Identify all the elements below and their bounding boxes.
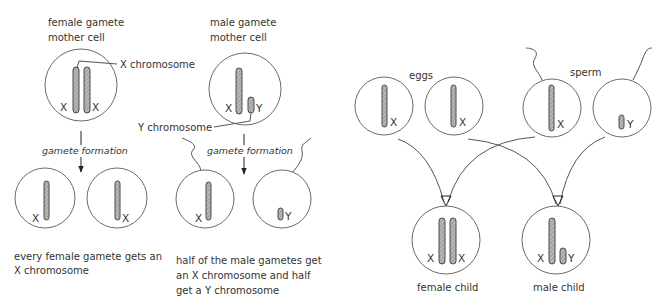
female-caption-2: X chromosome bbox=[14, 265, 89, 276]
gamete-formation-label-female: gamete formation bbox=[42, 145, 128, 156]
female-mother-cell-label-2: mother cell bbox=[48, 32, 105, 43]
x-label: X bbox=[195, 212, 202, 224]
x-label: X bbox=[92, 101, 99, 113]
male-mother-cell: X Y bbox=[209, 53, 281, 125]
x-label: X bbox=[60, 101, 67, 113]
x-label: X bbox=[122, 212, 129, 224]
sperm-tail-icon bbox=[526, 48, 542, 80]
male-child-label: male child bbox=[533, 282, 585, 293]
sperm-label: sperm bbox=[570, 67, 601, 78]
male-caption-1: half of the male gametes get bbox=[176, 255, 322, 266]
x-label: X bbox=[459, 116, 466, 128]
egg-1: X bbox=[355, 77, 413, 135]
x-label: X bbox=[225, 102, 232, 114]
eggs-label: eggs bbox=[409, 70, 433, 81]
y-label: Y bbox=[626, 118, 634, 130]
male-mother-cell-label-1: male gamete bbox=[210, 17, 276, 28]
egg2-to-male-child-line bbox=[468, 139, 556, 204]
sperm-tail-icon bbox=[182, 138, 201, 173]
female-gamete-2: X bbox=[87, 168, 147, 228]
x-label: X bbox=[458, 252, 465, 264]
female-caption-1: every female gamete gets an bbox=[14, 251, 162, 262]
female-mother-cell-label-1: female gamete bbox=[48, 17, 124, 28]
female-gamete-1: X bbox=[15, 168, 75, 228]
sperm-tail-icon bbox=[292, 138, 311, 173]
male-child-cell: X Y bbox=[522, 206, 590, 274]
sperm-x-to-female-child-line bbox=[448, 137, 535, 202]
y-chromosome-callout: Y chromosome bbox=[137, 122, 212, 133]
y-label: Y bbox=[567, 252, 575, 264]
gamete-formation-label-male: gamete formation bbox=[207, 145, 293, 156]
egg-2: X bbox=[425, 77, 483, 135]
female-mother-cell: X X bbox=[45, 49, 117, 121]
y-label: Y bbox=[284, 210, 292, 222]
x-label: X bbox=[557, 118, 564, 130]
sperm-1: X bbox=[523, 48, 581, 137]
sperm-2: Y bbox=[593, 48, 652, 137]
sperm-tail-icon bbox=[633, 48, 652, 80]
male-caption-3: get a Y chromosome bbox=[176, 285, 279, 296]
male-caption-2: an X chromosome and half bbox=[176, 270, 311, 281]
x-label: X bbox=[32, 212, 39, 224]
female-child-label: female child bbox=[417, 282, 478, 293]
x-chromosome-callout: X chromosome bbox=[120, 59, 195, 70]
x-label: X bbox=[390, 116, 397, 128]
sex-determination-diagram: female gamete mother cell X X X chromoso… bbox=[0, 0, 664, 307]
sperm-y-to-male-child-line bbox=[560, 137, 605, 204]
male-mother-cell-label-2: mother cell bbox=[210, 32, 267, 43]
x-label: X bbox=[427, 252, 434, 264]
egg1-to-female-child-line bbox=[398, 139, 444, 202]
female-child-cell: X X bbox=[412, 206, 480, 274]
y-label: Y bbox=[255, 102, 263, 114]
x-label: X bbox=[537, 252, 544, 264]
